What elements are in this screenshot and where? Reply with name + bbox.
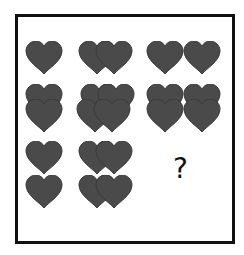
heart-icon <box>25 141 63 175</box>
heart-icon <box>146 99 184 133</box>
heart-icon <box>25 41 63 75</box>
heart-icon <box>95 141 133 175</box>
heart-icon <box>93 99 131 133</box>
question-mark: ? <box>173 152 188 185</box>
heart-icon <box>183 99 221 133</box>
heart-icon <box>25 99 63 133</box>
heart-icon <box>25 175 63 209</box>
heart-icon <box>146 41 184 75</box>
heart-icon <box>95 41 133 75</box>
heart-icon <box>95 175 133 209</box>
heart-icon <box>183 41 221 75</box>
